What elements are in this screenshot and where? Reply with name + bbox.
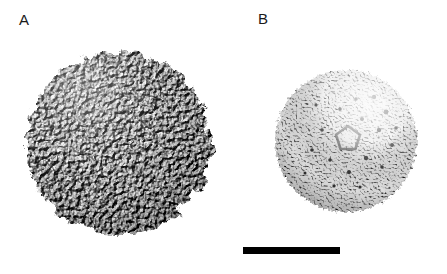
particle-a-body [2,27,234,259]
virus-capsid-particle-a [20,45,216,241]
virus-capsid-particle-b [272,67,420,215]
figure-root: A [0,0,447,274]
scale-bar [243,247,340,254]
panel-label-b: B [258,11,268,26]
panel-label-a: A [19,12,29,27]
particle-b-body [258,53,434,229]
particle-b-render [272,67,420,215]
particle-a-render [20,45,216,241]
